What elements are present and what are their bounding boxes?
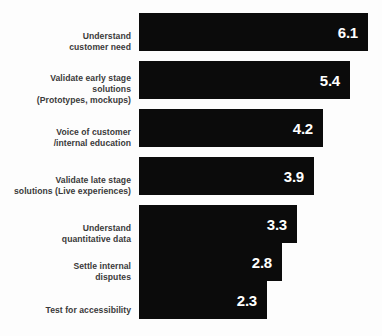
bar-category-label: Test for accessibility <box>3 305 131 316</box>
bar-row: Understand customer need6.1 <box>0 13 382 51</box>
bar-row: Understand quantitative data3.3 <box>0 205 382 243</box>
bar-row: Validate late stage solutions (Live expe… <box>0 157 382 195</box>
bar-category-label: Voice of customer /internal education <box>3 127 131 149</box>
bar-category-label: Understand customer need <box>3 31 131 53</box>
bar-value-label: 5.4 <box>320 73 340 88</box>
bar-row: Voice of customer /internal education4.2 <box>0 109 382 147</box>
bar-value-label: 2.8 <box>252 255 272 270</box>
bar-value-label: 6.1 <box>338 25 358 40</box>
bar-row: Settle internal disputes2.8 <box>0 243 382 281</box>
bar-row: Validate early stage solutions (Prototyp… <box>0 61 382 99</box>
bar-value-label: 4.2 <box>293 121 313 136</box>
bar-value-label: 2.3 <box>237 293 257 308</box>
bar-category-label: Validate early stage solutions (Prototyp… <box>3 73 131 107</box>
bar <box>139 13 368 51</box>
bar <box>139 61 350 99</box>
bar-category-label: Validate late stage solutions (Live expe… <box>3 175 131 197</box>
bar-value-label: 3.9 <box>284 169 304 184</box>
bar-chart: Understand customer need6.1Validate earl… <box>0 0 382 336</box>
bar-chart-rows: Understand customer need6.1Validate earl… <box>0 0 382 336</box>
bar-value-label: 3.3 <box>267 217 287 232</box>
bar-row: Test for accessibility2.3 <box>0 281 382 319</box>
